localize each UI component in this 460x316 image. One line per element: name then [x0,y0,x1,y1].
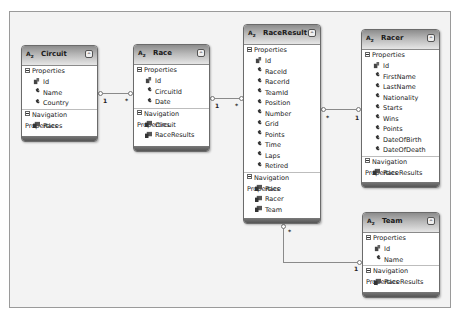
association-circuit-race[interactable] [101,93,130,94]
property-name: Grid [265,120,279,128]
navigation-section-header[interactable]: Navigation Properties [134,108,209,120]
navigation-section-header[interactable]: Navigation Properties [362,156,439,168]
property[interactable]: Position [244,98,320,109]
property[interactable]: Date [134,97,209,108]
property-name: Country [43,99,69,107]
collapse-chevron-icon[interactable]: ⌃ [197,49,205,57]
minus-box-icon[interactable] [366,268,371,273]
entity-race[interactable]: Az Race ⌃ Properties Id CircuitId Date N… [133,44,210,152]
entity-header[interactable]: Az Race ⌃ [134,45,209,65]
property[interactable]: Wins [362,114,439,125]
entity-team[interactable]: Az Team ⌃ Properties Id Name Navigation … [362,212,440,298]
property[interactable]: Points [244,130,320,141]
wrench-property-icon [255,130,262,137]
key-property-icon [374,245,381,252]
minus-box-icon[interactable] [247,174,252,179]
property[interactable]: Points [362,124,439,135]
entity-title: RaceResult [263,29,307,37]
property-name: LastName [383,83,416,91]
multiplicity-label: 1 [354,266,358,272]
property[interactable]: Starts [362,103,439,114]
navigation-property-icon [145,131,152,138]
wrench-property-icon [373,83,380,90]
entity-header[interactable]: Az RaceResult ⌃ [244,25,320,45]
property[interactable]: FirstName [362,72,439,83]
collapse-chevron-icon[interactable]: ⌃ [308,29,316,37]
property[interactable]: DateOfBirth [362,135,439,146]
collapse-chevron-icon[interactable]: ⌃ [427,217,435,225]
entity-circuit[interactable]: Az Circuit ⌃ Properties Id Name Country … [21,45,98,142]
wrench-property-icon [373,125,380,132]
key-property[interactable]: Id [134,76,209,87]
property[interactable]: Laps [244,151,320,162]
properties-section-header[interactable]: Properties [244,45,320,56]
multiplicity-label: 1 [215,103,219,109]
property[interactable]: Time [244,140,320,151]
property[interactable]: Name [22,88,97,99]
association-raceresult-racer[interactable] [324,109,358,110]
property[interactable]: RaceId [244,67,320,78]
property[interactable]: CircuitId [134,87,209,98]
minus-box-icon[interactable] [137,110,142,115]
properties-section-header[interactable]: Properties [134,65,209,76]
navigation-section-header[interactable]: Navigation Properties [22,109,97,121]
entity-header[interactable]: Az Team ⌃ [363,213,439,233]
wrench-property-icon [373,104,380,111]
property[interactable]: Country [22,98,97,109]
association-raceresult-team[interactable] [283,228,284,263]
property[interactable]: Name [363,255,439,266]
property[interactable]: LastName [362,82,439,93]
collapse-chevron-icon[interactable]: ⌃ [85,50,93,58]
navigation-section-header[interactable]: Navigation Properties [363,265,439,277]
multiplicity-label: * [326,115,329,121]
property-name: DateOfBirth [383,136,422,144]
wrench-property-icon [373,135,380,142]
key-property[interactable]: Id [22,77,97,88]
minus-box-icon[interactable] [365,52,370,57]
property-name: Name [43,89,62,97]
navigation-property[interactable]: RaceResults [134,130,209,141]
wrench-property-icon [255,88,262,95]
minus-box-icon[interactable] [25,68,30,73]
navigation-property[interactable]: Team [244,205,320,216]
section-label: Properties [144,66,177,74]
properties-section-header[interactable]: Properties [363,233,439,244]
minus-box-icon[interactable] [365,158,370,163]
property[interactable]: Retired [244,161,320,172]
minus-box-icon[interactable] [25,111,30,116]
entity-header[interactable]: Az Circuit ⌃ [22,46,97,66]
navigation-property[interactable]: Racer [244,194,320,205]
property-name: Id [384,245,390,253]
property-name: FirstName [383,73,416,81]
property[interactable]: TeamId [244,88,320,99]
key-property-icon [145,77,152,84]
properties-section-header[interactable]: Properties [362,50,439,61]
property-name: RaceId [265,68,287,76]
property[interactable]: Grid [244,119,320,130]
entity-raceresult[interactable]: Az RaceResult ⌃ Properties Id RaceId Rac… [243,24,321,224]
minus-box-icon[interactable] [366,235,371,240]
minus-box-icon[interactable] [247,47,252,52]
wrench-property-icon [255,78,262,85]
key-property[interactable]: Id [362,61,439,72]
property[interactable]: Number [244,109,320,120]
key-property[interactable]: Id [363,244,439,255]
entity-footer [244,218,320,223]
section-label: Properties [32,67,65,75]
property-name: Team [265,206,282,214]
property[interactable]: DateOfDeath [362,145,439,156]
minus-box-icon[interactable] [137,67,142,72]
entity-racer[interactable]: Az Racer ⌃ Properties Id FirstName LastN… [361,29,440,188]
association-end [321,107,326,112]
entity-header[interactable]: Az Racer ⌃ [362,30,439,50]
property[interactable]: Nationality [362,93,439,104]
properties-section-header[interactable]: Properties [22,66,97,77]
property[interactable]: RacerId [244,77,320,88]
collapse-chevron-icon[interactable]: ⌃ [427,34,435,42]
key-property-icon [33,78,40,85]
key-property[interactable]: Id [244,56,320,67]
navigation-section-header[interactable]: Navigation Properties [244,172,320,184]
property-name: Nationality [383,94,418,102]
association-raceresult-team-h[interactable] [283,262,359,263]
association-race-raceresult[interactable] [213,98,241,99]
